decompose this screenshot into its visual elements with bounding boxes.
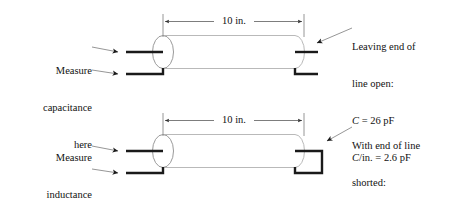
bottom-right-annotation-line2: shorted: bbox=[352, 177, 453, 189]
top-left-label-line2: capacitance bbox=[0, 102, 92, 114]
top-right-annotation-line2: line open: bbox=[352, 78, 453, 90]
bottom-dimension-label: 10 in. bbox=[196, 114, 272, 125]
top-left-label-line1: Measure bbox=[0, 65, 92, 77]
top-right-annotation-line1: Leaving end of bbox=[352, 41, 453, 53]
bottom-left-label: Measure inductance and/or series resista… bbox=[0, 127, 92, 203]
bottom-right-annotation: With end of line shorted: L=64 nH L/in. … bbox=[352, 115, 453, 203]
bottom-right-annotation-line1: With end of line bbox=[352, 140, 453, 152]
top-dimension-label: 10 in. bbox=[196, 15, 272, 26]
bottom-left-label-line1: Measure bbox=[0, 152, 92, 164]
bottom-left-label-line2: inductance bbox=[0, 189, 92, 201]
